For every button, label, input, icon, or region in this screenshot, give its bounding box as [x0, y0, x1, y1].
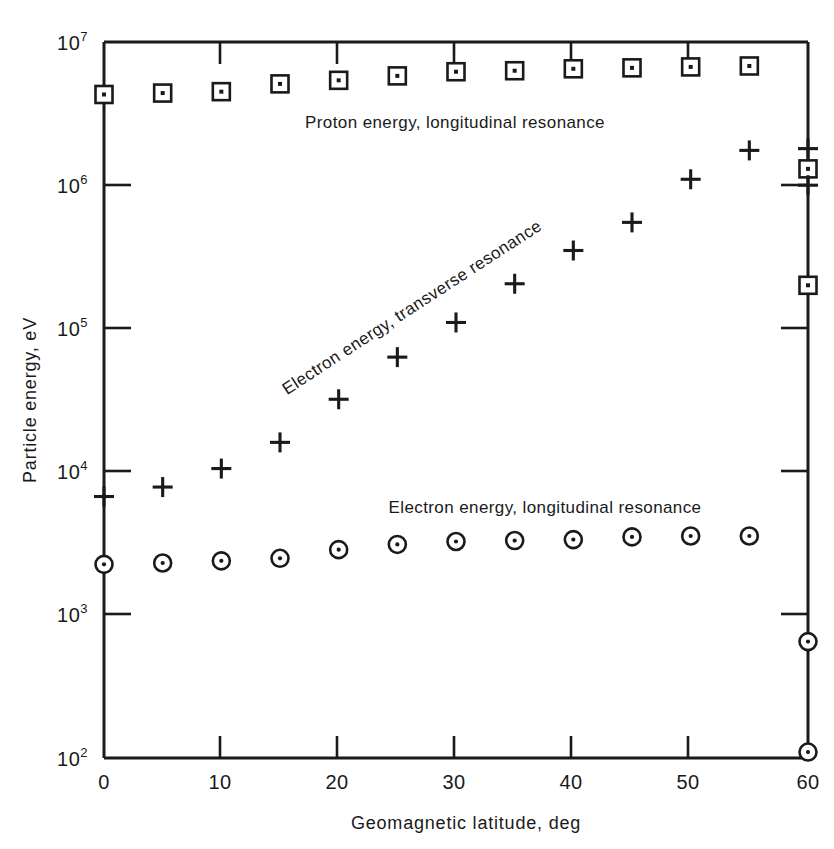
series-electron-energy-transverse: [94, 139, 818, 507]
y-tick-label-5: 105: [57, 315, 88, 340]
x-tick-label-30: 30: [442, 771, 465, 793]
data-point: [682, 528, 699, 545]
data-point: [739, 140, 759, 160]
x-tick-labels: 0 10 20 30 40 50 60: [98, 771, 819, 793]
data-point: [563, 240, 583, 260]
data-point: [800, 744, 817, 761]
data-point: [506, 62, 523, 79]
data-point: [329, 389, 349, 409]
data-point: [624, 528, 641, 545]
data-point: [565, 531, 582, 548]
figure-container: 107 106 105 104 103 102 0 10 20 30 40: [0, 0, 834, 849]
data-point: [800, 160, 817, 177]
data-point: [741, 57, 758, 74]
data-point: [506, 532, 523, 549]
series-proton-energy-longitudinal: [96, 57, 817, 293]
x-tick-label-50: 50: [676, 771, 699, 793]
x-tick-label-0: 0: [98, 771, 110, 793]
data-point: [682, 58, 699, 75]
data-point: [389, 536, 406, 553]
x-axis-ticks: [220, 42, 688, 758]
y-tick-label-2: 102: [57, 745, 88, 770]
data-point: [272, 75, 289, 92]
data-point: [800, 277, 817, 294]
data-point: [622, 212, 642, 232]
data-point: [448, 63, 465, 80]
annotation-electron-longitudinal: Electron energy, longitudinal resonance: [389, 498, 702, 517]
y-tick-label-6: 106: [57, 172, 88, 197]
data-point: [798, 139, 818, 159]
y-tick-label-4: 104: [57, 458, 88, 483]
data-point: [505, 274, 525, 294]
series-electron-energy-longitudinal: [96, 528, 817, 761]
data-point: [213, 83, 230, 100]
data-point: [154, 555, 171, 572]
x-tick-label-60: 60: [796, 771, 819, 793]
data-point: [153, 477, 173, 497]
data-point: [96, 556, 113, 573]
data-point: [800, 633, 817, 650]
data-point: [624, 59, 641, 76]
data-point: [681, 169, 701, 189]
data-point: [330, 72, 347, 89]
data-point: [213, 552, 230, 569]
y-axis-title: Particle energy, eV: [20, 317, 40, 483]
data-point: [211, 459, 231, 479]
data-point: [741, 528, 758, 545]
data-point: [565, 60, 582, 77]
data-point: [94, 487, 114, 507]
data-point: [272, 550, 289, 567]
x-tick-label-40: 40: [559, 771, 582, 793]
y-tick-label-3: 103: [57, 601, 88, 626]
plot-frame: [104, 42, 808, 758]
x-tick-label-20: 20: [325, 771, 348, 793]
annotation-electron-transverse: Electron energy, transverse resonance: [279, 216, 546, 398]
x-tick-label-10: 10: [208, 771, 231, 793]
data-point: [387, 347, 407, 367]
particle-energy-scatter-chart: 107 106 105 104 103 102 0 10 20 30 40: [0, 0, 834, 849]
x-axis-title: Geomagnetic latitude, deg: [351, 813, 581, 833]
data-point: [448, 533, 465, 550]
data-point: [154, 85, 171, 102]
annotation-proton-longitudinal: Proton energy, longitudinal resonance: [305, 113, 605, 132]
data-point: [330, 541, 347, 558]
data-point: [96, 86, 113, 103]
y-tick-labels: 107 106 105 104 103 102: [57, 29, 88, 770]
y-tick-label-7: 107: [57, 29, 88, 54]
data-point: [389, 67, 406, 84]
data-point: [446, 312, 466, 332]
data-point: [270, 432, 290, 452]
